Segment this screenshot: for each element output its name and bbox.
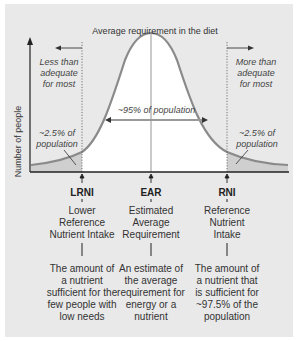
y-axis-arrow-icon (27, 37, 33, 45)
marker-lrni-abbr: LRNI (57, 187, 107, 198)
right-region-line: for most (230, 79, 282, 90)
left-region-line: for most (38, 79, 80, 90)
marker-ear-abbr: EAR (126, 187, 176, 198)
center-population-label: ~95% of population (108, 105, 205, 116)
desc-line: ~97.5% of the (177, 299, 277, 311)
name-line: Nutrient (177, 217, 277, 229)
marker-rni-name: Reference Nutrient Intake (177, 205, 277, 241)
marker-rni-description: The amount of a nutrient that is suffici… (177, 263, 277, 323)
right-region-line: More than (230, 57, 282, 68)
left-tail-label: ~2.5% of population (34, 128, 80, 150)
marker-rni-abbr: RNI (202, 187, 252, 198)
desc-line: a nutrient that (177, 275, 277, 287)
left-region-line: adequate (38, 68, 80, 79)
right-tail-line: ~2.5% of (232, 128, 282, 139)
left-tail-line: ~2.5% of (34, 128, 80, 139)
name-line: Reference (177, 205, 277, 217)
left-region-label: Less than adequate for most (38, 57, 80, 90)
right-tail-label: ~2.5% of population (232, 128, 282, 150)
desc-line: is sufficient for (177, 287, 277, 299)
left-arrow-icon (55, 46, 61, 51)
left-region-line: Less than (38, 57, 80, 68)
marker-arrows (80, 174, 229, 183)
desc-line: population (177, 311, 277, 323)
y-axis-label: Number of people (13, 102, 24, 182)
chart-title: Average requirement in the diet (90, 26, 220, 37)
center-area (82, 33, 227, 172)
right-region-line: adequate (230, 68, 282, 79)
name-line: Intake (177, 229, 277, 241)
right-tail-line: population (232, 139, 282, 150)
right-region-label: More than adequate for most (230, 57, 282, 90)
span-arrow-right-icon (202, 117, 208, 123)
right-arrow-icon (248, 46, 254, 51)
left-tail-line: population (34, 139, 80, 150)
desc-line: The amount of (177, 263, 277, 275)
